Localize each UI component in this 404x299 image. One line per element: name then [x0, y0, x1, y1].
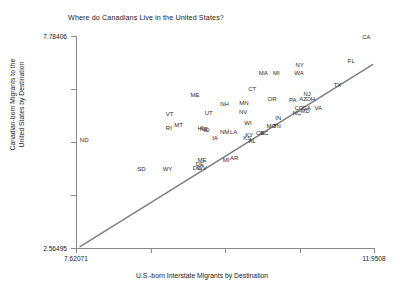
data-point-label: CT	[248, 86, 256, 92]
scatter-plot-figure: Where do Canadians Live in the United St…	[0, 0, 404, 299]
data-point-label: MI	[273, 70, 280, 76]
data-point-label: MD	[300, 108, 309, 114]
data-point-label: FL	[348, 58, 355, 64]
data-point-label: OH	[306, 96, 315, 102]
data-point-label: MI	[223, 157, 230, 163]
data-point-label: ME	[191, 92, 200, 98]
data-point-label: ND	[80, 137, 89, 143]
data-point-label: VA	[314, 105, 322, 111]
data-point-label: WA	[294, 70, 303, 76]
data-point-label: MA	[259, 70, 268, 76]
data-point-label: AZ	[299, 96, 307, 102]
data-point-label: UT	[205, 110, 213, 116]
data-point-label: MN	[239, 100, 248, 106]
data-point-label: IA	[212, 135, 218, 141]
data-point-label: NH	[220, 101, 229, 107]
data-point-label: WI	[244, 120, 251, 126]
data-point-label: TN	[273, 123, 281, 129]
data-point-label: NM	[220, 129, 229, 135]
data-point-label: ID	[204, 127, 210, 133]
data-point-label: IN	[275, 115, 281, 121]
data-point-label: MT	[174, 122, 183, 128]
data-point-label: LA	[230, 129, 237, 135]
data-point-label: OR	[268, 96, 277, 102]
data-point-label: NY	[295, 62, 303, 68]
data-point-label: AR	[230, 155, 238, 161]
data-point-label: WY	[163, 166, 173, 172]
data-point-label: SD	[137, 166, 145, 172]
data-point-label: PA	[289, 97, 297, 103]
data-point-label: NC	[293, 110, 302, 116]
data-point-label: NV	[239, 109, 247, 115]
data-point-label: TX	[334, 82, 342, 88]
regression-fit-line	[0, 0, 404, 299]
data-point-label: SC	[260, 130, 268, 136]
data-point-label: RI	[166, 125, 172, 131]
data-point-label: DC	[193, 165, 202, 171]
data-point-label: AL	[248, 138, 255, 144]
data-point-label: VT	[166, 111, 174, 117]
data-point-label: CA	[362, 34, 370, 40]
